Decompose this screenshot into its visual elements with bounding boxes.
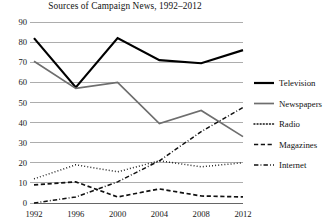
y-tick-label: 70 bbox=[18, 57, 27, 67]
tick-marks bbox=[30, 22, 34, 203]
series-line-internet bbox=[34, 107, 243, 203]
x-tick-label: 2004 bbox=[151, 209, 169, 219]
series-line-television bbox=[34, 38, 243, 87]
y-tick-label: 50 bbox=[18, 98, 27, 108]
y-tick-label: 10 bbox=[18, 178, 27, 188]
y-axis-tick-labels: 0102030405060708090 bbox=[18, 17, 27, 208]
legend-label-radio: Radio bbox=[279, 119, 301, 129]
x-tick-label: 1996 bbox=[67, 209, 85, 219]
series-line-radio bbox=[34, 161, 243, 179]
y-tick-label: 0 bbox=[23, 198, 27, 208]
x-tick-label: 2000 bbox=[109, 209, 126, 219]
chart-container: Sources of Campaign News, 1992–2012 0102… bbox=[0, 0, 328, 224]
chart-legend: TelevisionNewspapersRadioMagazinesIntern… bbox=[254, 78, 323, 170]
legend-label-magazines: Magazines bbox=[279, 140, 318, 150]
y-tick-label: 90 bbox=[18, 17, 27, 27]
series-line-magazines bbox=[34, 182, 243, 197]
legend-label-internet: Internet bbox=[279, 160, 307, 170]
data-series bbox=[34, 38, 243, 203]
chart-plot-area: 0102030405060708090 19921996200020042008… bbox=[0, 0, 328, 224]
legend-label-television: Television bbox=[279, 78, 316, 88]
y-tick-label: 20 bbox=[18, 158, 27, 168]
y-tick-label: 80 bbox=[18, 37, 27, 47]
x-tick-label: 2008 bbox=[193, 209, 210, 219]
x-tick-label: 2012 bbox=[234, 209, 251, 219]
x-axis-tick-labels: 199219962000200420082012 bbox=[25, 209, 251, 219]
legend-label-newspapers: Newspapers bbox=[279, 99, 323, 109]
y-tick-label: 30 bbox=[18, 138, 27, 148]
y-tick-label: 60 bbox=[18, 77, 27, 87]
x-tick-label: 1992 bbox=[25, 209, 42, 219]
y-tick-label: 40 bbox=[18, 118, 27, 128]
